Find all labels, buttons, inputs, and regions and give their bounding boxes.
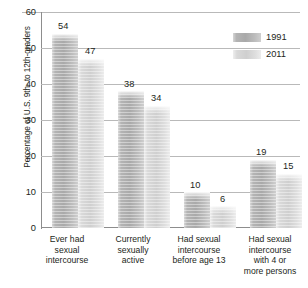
- bar-2011-had-sexual-intercourse-before-age-13[interactable]: [210, 206, 236, 228]
- bar-1991-ever-had-sexual-intercourse[interactable]: [52, 34, 78, 228]
- x-axis-label-0-line-1: sexual: [30, 245, 104, 256]
- y-tick-50: 50: [14, 43, 36, 53]
- bar-value-1991-2: 10: [190, 180, 200, 190]
- legend-label-2011: 2011: [266, 49, 286, 59]
- bar-cap: [144, 106, 170, 113]
- x-axis-label-1-line-0: Currently: [98, 234, 168, 245]
- legend-swatch-2011-icon: [233, 50, 261, 59]
- bar-value-1991-1: 38: [124, 79, 134, 89]
- legend-item-1991[interactable]: 1991: [233, 30, 303, 44]
- x-axis-label-3-line-2: with 4 or: [233, 255, 307, 266]
- y-tick-30: 30: [14, 115, 36, 125]
- y-tick-0: 0: [14, 223, 36, 233]
- y-tick-10: 10: [14, 187, 36, 197]
- y-axis-ticks: 60 50 40 30 20 10 0: [12, 12, 36, 228]
- bar-texture: [118, 91, 144, 228]
- legend-swatch-1991-icon: [233, 33, 261, 42]
- bar-cap: [78, 59, 104, 66]
- legend-label-1991: 1991: [266, 32, 287, 42]
- x-axis-label-0-line-0: Ever had: [30, 234, 104, 245]
- bar-texture: [52, 34, 78, 228]
- bar-texture: [250, 160, 276, 228]
- y-tick-20: 20: [14, 151, 36, 161]
- bar-cap: [184, 192, 210, 199]
- legend: 1991 2011: [233, 30, 303, 64]
- bar-1991-had-sexual-intercourse-with-4-or-more-persons[interactable]: [250, 160, 276, 228]
- y-tick-40: 40: [14, 79, 36, 89]
- bar-group-ever-had-sexual-intercourse: 54 47: [52, 12, 104, 228]
- x-axis-label-2: Had sexual intercourse before age 13: [161, 234, 237, 266]
- bar-value-2011-0: 47: [85, 46, 95, 56]
- bar-1991-currently-sexually-active[interactable]: [118, 91, 144, 228]
- x-axis-label-2-line-1: intercourse: [161, 245, 237, 256]
- x-axis-label-1: Currently sexually active: [98, 234, 168, 266]
- legend-item-2011[interactable]: 2011: [233, 47, 303, 61]
- bar-group-had-sexual-intercourse-before-age-13: 10 6: [184, 12, 236, 228]
- bar-cap: [52, 34, 78, 41]
- x-axis-label-3-line-1: intercourse: [233, 245, 307, 256]
- bar-texture: [276, 174, 302, 228]
- bar-chart: Percentage of U.S. 9th- to 12th-graders …: [0, 0, 308, 288]
- bar-2011-currently-sexually-active[interactable]: [144, 106, 170, 228]
- x-axis-label-0: Ever had sexual intercourse: [30, 234, 104, 266]
- bar-cap: [118, 91, 144, 98]
- bar-2011-had-sexual-intercourse-with-4-or-more-persons[interactable]: [276, 174, 302, 228]
- x-axis-label-1-line-1: sexually: [98, 245, 168, 256]
- bar-value-1991-3: 19: [256, 147, 266, 157]
- x-axis-label-1-line-2: active: [98, 255, 168, 266]
- bar-texture: [78, 59, 104, 228]
- x-axis-label-2-line-2: before age 13: [161, 255, 237, 266]
- y-tick-60: 60: [14, 7, 36, 17]
- bar-group-currently-sexually-active: 38 34: [118, 12, 170, 228]
- x-axis-label-2-line-0: Had sexual: [161, 234, 237, 245]
- bar-texture: [144, 106, 170, 228]
- bar-cap: [250, 160, 276, 167]
- bar-1991-had-sexual-intercourse-before-age-13[interactable]: [184, 192, 210, 228]
- bar-cap: [210, 206, 236, 213]
- x-axis-label-3-line-0: Had sexual: [233, 234, 307, 245]
- x-axis-label-3: Had sexual intercourse with 4 or more pe…: [233, 234, 307, 276]
- bar-value-2011-2: 6: [220, 194, 225, 204]
- x-axis-label-3-line-3: more persons: [233, 266, 307, 277]
- bar-value-1991-0: 54: [58, 21, 68, 31]
- x-axis-label-0-line-2: intercourse: [30, 255, 104, 266]
- bar-cap: [276, 174, 302, 181]
- bar-2011-ever-had-sexual-intercourse[interactable]: [78, 59, 104, 228]
- bar-value-2011-1: 34: [151, 93, 161, 103]
- bar-value-2011-3: 15: [283, 161, 293, 171]
